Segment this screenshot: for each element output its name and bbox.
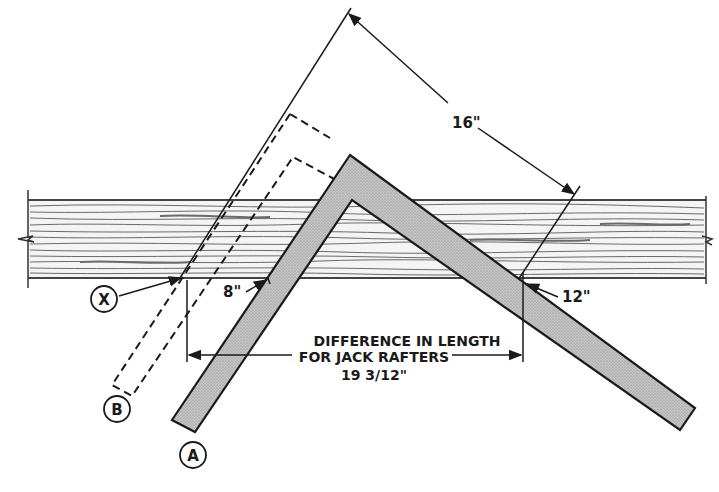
jack-rafter-diagram: 16" DIFFERENCE IN LENGTH FOR JACK RAFTER… [0,0,719,492]
marker-x: X [91,278,181,312]
marker-a: A [180,442,206,468]
tongue-mark-label: 8" [223,283,241,301]
blade-length-label: 16" [452,114,481,132]
marker-a-label: A [187,447,199,465]
marker-x-label: X [98,291,110,309]
blade-mark-label: 12" [562,288,591,306]
framing-square-a [172,155,695,432]
difference-label-line2: FOR JACK RAFTERS [299,349,449,365]
marker-b-label: B [111,401,122,419]
difference-value: 19 3/12" [341,367,407,383]
dimension-16-inch: 16" [349,14,574,194]
marker-b: B [104,396,130,422]
difference-label-line1: DIFFERENCE IN LENGTH [314,333,501,349]
